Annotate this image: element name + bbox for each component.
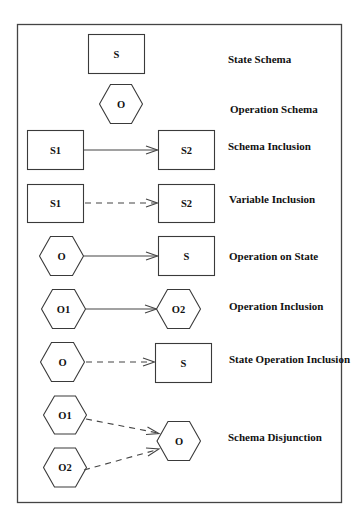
- legend-label-schema-disjunction: Schema Disjunction: [228, 431, 322, 443]
- row-variable-inclusion: S1 S2 Variable Inclusion: [28, 185, 316, 223]
- legend-label-operation-schema: Operation Schema: [230, 103, 318, 115]
- operation-on-state-target-label: S: [184, 251, 190, 262]
- legend-label-operation-inclusion: Operation Inclusion: [229, 300, 323, 312]
- row-operation-on-state: O S Operation on State: [40, 237, 319, 276]
- legend-label-operation-on-state: Operation on State: [229, 250, 318, 262]
- operation-inclusion-source-label: O1: [57, 304, 70, 315]
- state-operation-inclusion-source-label: O: [58, 357, 66, 368]
- row-operation-inclusion: O1 O2 Operation Inclusion: [42, 290, 324, 329]
- state-schema-node-label: S: [114, 49, 120, 60]
- row-state-operation-inclusion: O S State Operation Inclusion: [41, 343, 351, 383]
- schema-disjunction-edge-2: [84, 450, 158, 471]
- legend-label-state-operation-inclusion: State Operation Inclusion: [229, 353, 350, 365]
- row-schema-disjunction: O1 O2 O Schema Disjunction: [44, 396, 322, 487]
- schema-disjunction-source-label-2: O2: [58, 462, 71, 473]
- variable-inclusion-source-label: S1: [50, 198, 61, 209]
- schema-inclusion-source-label: S1: [50, 145, 61, 156]
- legend-label-state-schema: State Schema: [228, 53, 292, 65]
- legend-label-schema-inclusion: Schema Inclusion: [228, 140, 311, 152]
- schema-disjunction-edge-1: [86, 419, 158, 433]
- state-operation-inclusion-target-label: S: [181, 358, 187, 369]
- schema-disjunction-source-label-1: O1: [58, 410, 71, 421]
- legend-label-variable-inclusion: Variable Inclusion: [229, 193, 315, 205]
- arrowhead-icon: [146, 427, 159, 435]
- operation-schema-node-label: O: [117, 99, 125, 110]
- schema-inclusion-target-label: S2: [181, 145, 192, 156]
- operation-on-state-source-label: O: [57, 251, 65, 262]
- row-operation-schema: O Operation Schema: [100, 85, 319, 124]
- row-state-schema: S State Schema: [89, 35, 292, 74]
- schema-disjunction-target-label: O: [175, 436, 183, 447]
- row-schema-inclusion: S1 S2 Schema Inclusion: [28, 131, 311, 170]
- schema-legend-diagram: S State Schema O Operation Schema S1 S2 …: [0, 0, 360, 528]
- variable-inclusion-target-label: S2: [181, 198, 192, 209]
- operation-inclusion-target-label: O2: [172, 304, 185, 315]
